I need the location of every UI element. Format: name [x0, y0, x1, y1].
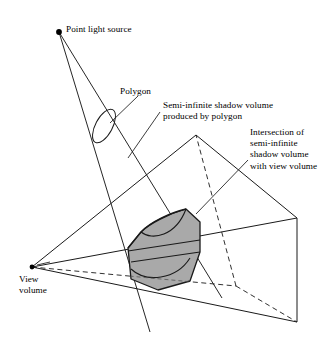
- label-point-light-source: Point light source: [66, 24, 132, 35]
- label-semi-infinite-shadow-volume: Semi-infinite shadow volume produced by …: [163, 100, 273, 122]
- leader-intersection: [196, 160, 248, 214]
- label-intersection-with-view-volume: Intersection of semi-infinite shadow vol…: [250, 127, 317, 172]
- label-view-volume: View volume: [19, 274, 47, 296]
- label-polygon: Polygon: [120, 86, 151, 97]
- view-volume-apex-marker: [30, 265, 35, 270]
- intersection-solid: [32, 209, 236, 290]
- leader-polygon: [110, 96, 138, 123]
- polygon-shape: [88, 106, 120, 147]
- shadow-volume-figure: Point light source Polygon Semi-infinite…: [0, 0, 336, 340]
- point-light-source-marker: [56, 29, 62, 35]
- shadow-volume-cone: [59, 32, 222, 332]
- leader-semi-infinite: [128, 112, 160, 158]
